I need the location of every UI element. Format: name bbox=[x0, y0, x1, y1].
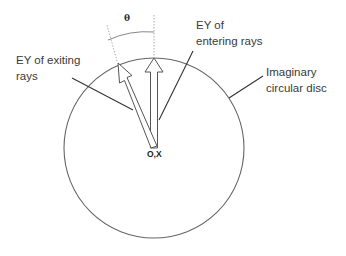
exiting-label-line2: rays bbox=[16, 68, 80, 84]
disc-label-line2: circular disc bbox=[266, 80, 327, 96]
entering-label-line2: entering rays bbox=[196, 33, 262, 49]
theta-arc bbox=[108, 32, 154, 40]
entering-leader-line bbox=[159, 51, 193, 120]
entering-label-line1: EY of bbox=[196, 17, 262, 33]
origin-label: O,X bbox=[147, 149, 162, 159]
exiting-rays-label: EY of exiting rays bbox=[16, 52, 80, 84]
disc-label: Imaginary circular disc bbox=[266, 64, 327, 96]
disc-leader-line bbox=[229, 76, 263, 98]
tilted-guide-line bbox=[107, 25, 117, 61]
disc-label-line1: Imaginary bbox=[266, 64, 327, 80]
diagram-canvas bbox=[0, 0, 346, 256]
entering-rays-label: EY of entering rays bbox=[196, 17, 262, 49]
exiting-label-line1: EY of exiting bbox=[16, 52, 80, 68]
theta-label: θ bbox=[124, 13, 130, 23]
exiting-leader-line bbox=[72, 78, 133, 110]
